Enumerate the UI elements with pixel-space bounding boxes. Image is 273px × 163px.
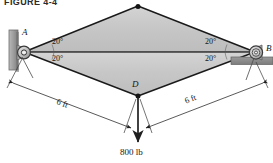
angle-label-bottom-right: 20°: [205, 55, 216, 63]
pin-inner: [21, 50, 26, 55]
angle-label-top-left: 20°: [52, 38, 63, 46]
dim-line-right: [146, 83, 263, 128]
point-label-b: B: [266, 44, 272, 53]
angle-label-top-right: 20°: [205, 38, 216, 46]
angle-label-bottom-left: 20°: [52, 55, 63, 63]
point-label-a: A: [22, 28, 28, 37]
leader-a: [22, 57, 33, 78]
ext-line-b: [256, 62, 268, 88]
frame-body: [24, 6, 255, 96]
dim-line-left: [13, 83, 131, 128]
joint-c-node: [136, 4, 141, 9]
figure-title: FIGURE 4-4: [4, 0, 58, 7]
point-label-d: D: [132, 80, 139, 89]
roller-inner: [255, 51, 258, 54]
load-label: 800 lb: [120, 148, 143, 157]
